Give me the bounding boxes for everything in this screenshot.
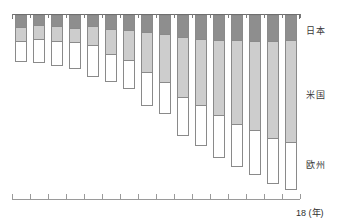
bottom-tick <box>120 194 121 199</box>
bar-segment-japan <box>88 16 98 26</box>
bar-segment-us <box>106 29 116 54</box>
bar-segment-europe <box>70 42 80 68</box>
top-tick <box>300 14 301 18</box>
bar-segment-us <box>268 41 278 138</box>
bar-segment-europe <box>160 82 170 113</box>
top-tick <box>282 14 283 18</box>
plot-area <box>0 0 300 224</box>
bar-segment-us <box>250 41 260 130</box>
stacked-bar <box>105 15 117 82</box>
bar-segment-us <box>124 30 134 60</box>
bar-segment-us <box>70 28 80 42</box>
stacked-bar <box>213 15 225 158</box>
top-tick <box>228 14 229 18</box>
bar-segment-europe <box>142 72 152 105</box>
bar-segment-japan <box>124 16 134 30</box>
bar-segment-japan <box>70 16 80 28</box>
top-tick <box>48 14 49 18</box>
stacked-bar <box>159 15 171 114</box>
stacked-bar <box>51 15 63 66</box>
bar-segment-japan <box>34 16 44 25</box>
bar-segment-japan <box>232 16 242 40</box>
bar-segment-japan <box>106 16 116 29</box>
stacked-bar <box>69 15 81 69</box>
bar-segment-us <box>160 34 170 82</box>
bar-segment-japan <box>214 16 224 40</box>
bottom-tick <box>246 194 247 199</box>
stacked-bar <box>87 15 99 77</box>
bar-segment-japan <box>250 16 260 41</box>
bar-segment-us <box>88 26 98 45</box>
bar-segment-us <box>214 40 224 115</box>
bottom-tick <box>228 194 229 199</box>
bottom-tick <box>156 194 157 199</box>
bar-segment-europe <box>124 60 134 88</box>
bar-segment-us <box>286 40 296 142</box>
top-tick <box>84 14 85 18</box>
bar-segment-europe <box>232 124 242 166</box>
top-tick <box>192 14 193 18</box>
bar-segment-japan <box>160 16 170 34</box>
bar-segment-japan <box>178 16 188 37</box>
bottom-tick <box>66 194 67 199</box>
bottom-tick <box>30 194 31 199</box>
region-label: 欧州 <box>306 158 325 171</box>
top-tick <box>30 14 31 18</box>
stacked-bar <box>33 15 45 63</box>
bar-segment-japan <box>16 16 26 27</box>
stacked-bar <box>123 15 135 89</box>
bar-segment-japan <box>142 16 152 32</box>
top-tick <box>120 14 121 18</box>
chart-page: 日本米国欧州 18 (年) <box>0 0 338 224</box>
bar-segment-japan <box>286 16 296 40</box>
top-tick <box>156 14 157 18</box>
stacked-bar <box>231 15 243 167</box>
top-tick <box>246 14 247 18</box>
stacked-bar <box>177 15 189 136</box>
bar-segment-japan <box>196 16 206 39</box>
top-tick <box>12 14 13 18</box>
top-tick <box>210 14 211 18</box>
bottom-tick <box>192 194 193 199</box>
bar-segment-europe <box>34 39 44 62</box>
bottom-tick <box>48 194 49 199</box>
top-tick <box>174 14 175 18</box>
bar-segment-europe <box>196 105 206 145</box>
stacked-bar <box>141 15 153 106</box>
bottom-tick <box>174 194 175 199</box>
bar-segment-us <box>16 27 26 41</box>
bar-segment-us <box>196 39 206 105</box>
bar-segment-japan <box>268 16 278 41</box>
bar-segment-europe <box>178 97 188 135</box>
top-tick <box>264 14 265 18</box>
bar-segment-europe <box>106 54 116 81</box>
stacked-bar <box>15 15 27 62</box>
x-axis-caption: 18 (年) <box>296 206 324 219</box>
region-label: 米国 <box>306 88 325 101</box>
bottom-axis-line <box>12 199 300 200</box>
bar-segment-europe <box>250 130 260 174</box>
top-tick <box>66 14 67 18</box>
top-tick <box>138 14 139 18</box>
bottom-tick <box>84 194 85 199</box>
bar-segment-europe <box>52 41 62 65</box>
bottom-tick <box>210 194 211 199</box>
top-tick <box>102 14 103 18</box>
region-label: 日本 <box>306 24 325 37</box>
bar-segment-europe <box>214 115 224 157</box>
bottom-tick <box>264 194 265 199</box>
stacked-bar <box>285 15 297 190</box>
bottom-tick <box>138 194 139 199</box>
stacked-bar <box>267 15 279 184</box>
bottom-tick <box>282 194 283 199</box>
stacked-bar <box>249 15 261 175</box>
bar-segment-japan <box>52 16 62 26</box>
bar-segment-us <box>232 40 242 124</box>
bar-segment-europe <box>286 142 296 189</box>
bottom-tick <box>12 194 13 199</box>
bar-segment-us <box>34 25 44 39</box>
bar-segment-europe <box>88 45 98 76</box>
bar-segment-europe <box>16 41 26 61</box>
bar-segment-us <box>142 32 152 72</box>
bottom-tick <box>102 194 103 199</box>
